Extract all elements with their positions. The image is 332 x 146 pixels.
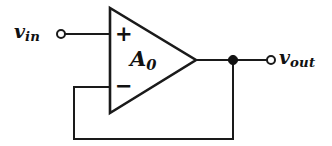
- circuit-schematic-canvas: [0, 0, 332, 146]
- output-voltage-label: vout: [279, 48, 315, 67]
- opamp-gain-symbol: A: [130, 46, 146, 71]
- opamp-gain-label: A0: [130, 48, 157, 69]
- inverting-input-sign: −: [115, 76, 131, 97]
- circuit-diagram: vin vout A0 + −: [0, 0, 332, 146]
- output-junction-dot-icon: [228, 55, 237, 64]
- output-terminal-icon: [267, 56, 275, 64]
- input-voltage-symbol: v: [14, 20, 25, 42]
- noninverting-input-sign: +: [115, 24, 131, 45]
- input-voltage-subscript: in: [25, 29, 40, 44]
- input-voltage-label: vin: [14, 22, 40, 41]
- output-voltage-symbol: v: [279, 46, 290, 68]
- output-voltage-subscript: out: [290, 55, 315, 70]
- opamp-gain-subscript: 0: [146, 56, 156, 73]
- input-terminal-icon: [57, 30, 65, 38]
